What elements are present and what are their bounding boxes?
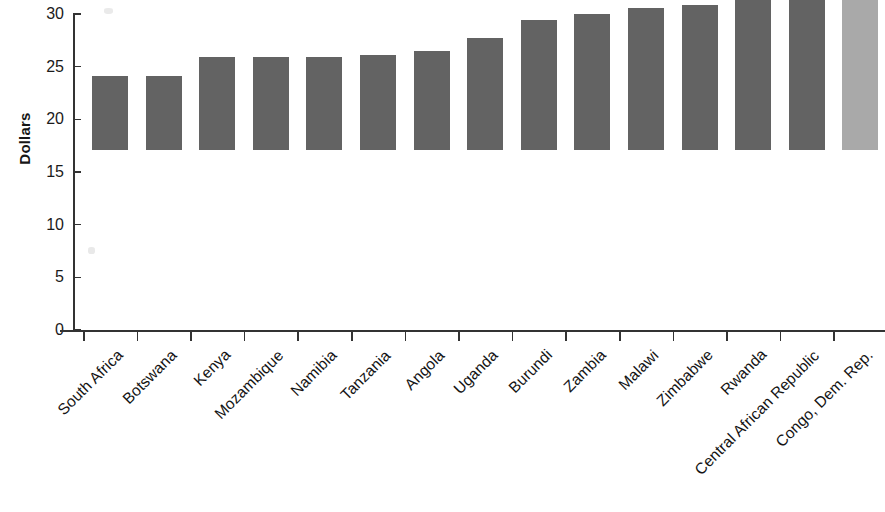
x-tick-label: South Africa <box>54 346 127 419</box>
bar-namibia[interactable] <box>306 57 342 150</box>
bar-angola[interactable] <box>414 51 450 150</box>
bar-malawi[interactable] <box>628 8 664 150</box>
x-tick-mark <box>565 331 567 341</box>
x-tick-label: Congo, Dem. Rep. <box>772 346 877 451</box>
x-tick-label: Botswana <box>119 346 180 407</box>
bar-congo-dem-rep[interactable] <box>842 0 878 150</box>
x-tick-mark <box>405 331 407 341</box>
bar-south-africa[interactable] <box>92 76 128 150</box>
x-tick-mark <box>458 331 460 341</box>
x-tick-label: Angola <box>401 346 448 393</box>
x-tick-label: Kenya <box>190 346 234 390</box>
bar-rwanda[interactable] <box>735 0 771 150</box>
x-tick-label: Zimbabwe <box>653 346 717 410</box>
x-tick-mark <box>244 331 246 341</box>
x-tick-mark <box>512 331 514 341</box>
bar-uganda[interactable] <box>467 38 503 150</box>
x-tick-mark <box>673 331 675 341</box>
x-tick-mark <box>137 331 139 341</box>
x-tick-mark <box>83 331 85 341</box>
bar-chart-figure: Dollars 051015202530 South AfricaBotswan… <box>0 0 885 512</box>
x-tick-mark <box>780 331 782 341</box>
x-tick-label: Zambia <box>560 346 610 396</box>
x-tick-mark <box>297 331 299 341</box>
bars-container <box>0 0 885 332</box>
x-tick-label: Rwanda <box>717 346 770 399</box>
x-tick-mark <box>833 331 835 341</box>
x-tick-mark <box>619 331 621 341</box>
x-tick-label: Uganda <box>450 346 502 398</box>
x-tick-label: Burundi <box>505 346 556 397</box>
x-tick-mark <box>726 331 728 341</box>
x-tick-label: Namibia <box>287 346 340 399</box>
bar-central-african-republic[interactable] <box>789 0 825 150</box>
x-tick-mark <box>351 331 353 341</box>
bar-kenya[interactable] <box>199 57 235 150</box>
bar-botswana[interactable] <box>146 76 182 150</box>
bar-tanzania[interactable] <box>360 55 396 150</box>
bar-zambia[interactable] <box>574 14 610 150</box>
bar-burundi[interactable] <box>521 20 557 150</box>
x-tick-label: Tanzania <box>337 346 394 403</box>
bar-mozambique[interactable] <box>253 57 289 150</box>
x-tick-label: Malawi <box>615 346 662 393</box>
x-tick-mark <box>190 331 192 341</box>
bar-zimbabwe[interactable] <box>682 5 718 150</box>
